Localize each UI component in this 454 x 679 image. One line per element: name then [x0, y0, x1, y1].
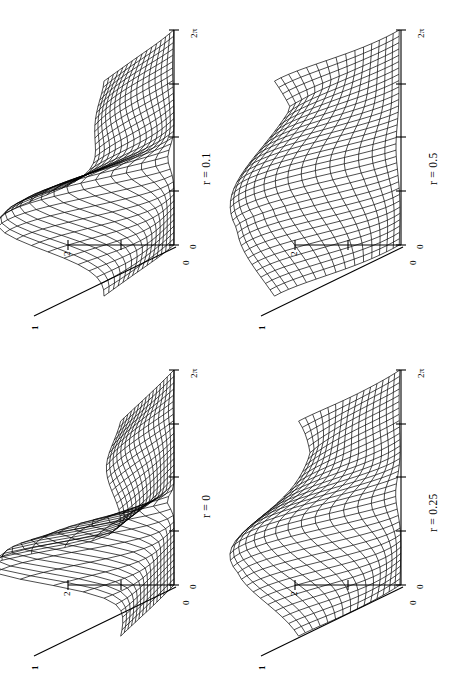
phase-axis-max-label: 2π	[416, 368, 426, 378]
mesh-line-depth	[1, 78, 109, 293]
mesh-line-phase	[282, 566, 400, 617]
phase-axis-max-label: 2π	[416, 28, 426, 38]
surface-mesh	[0, 370, 174, 636]
depth-axis	[34, 247, 176, 316]
depth-axis	[34, 587, 176, 656]
height-axis-max-label: 2	[62, 591, 72, 596]
mesh-line-phase	[230, 503, 396, 554]
surface-mesh	[230, 370, 401, 636]
phase-axis-zero-label: 0	[415, 584, 425, 589]
height-axis-max-label: 2	[62, 251, 72, 256]
surface-mesh	[0, 30, 174, 296]
mesh-line-phase	[299, 370, 400, 421]
panel-condition-label: r = 0.5	[427, 152, 439, 185]
mesh-line-depth	[0, 421, 123, 636]
mesh-line-phase	[279, 36, 399, 87]
mesh-line-depth	[384, 373, 396, 588]
surface-mesh	[230, 30, 400, 296]
mesh-line-depth	[20, 67, 126, 282]
height-axis-max-label: 2	[289, 591, 299, 596]
panel-condition-label: r = 0	[200, 495, 212, 518]
panel-r-0-25: r = 0.25 2π 0 0 2 1	[227, 340, 454, 679]
mesh-line-phase	[5, 182, 174, 233]
depth-axis-max-label: 1	[30, 665, 40, 670]
mesh-line-depth	[264, 404, 336, 619]
depth-axis	[261, 247, 403, 316]
depth-axis	[261, 587, 403, 656]
mesh-line-phase	[5, 163, 169, 214]
depth-axis-max-label: 1	[257, 325, 267, 330]
mesh-line-phase	[16, 156, 168, 207]
wireframe-surface-plot	[0, 340, 227, 679]
mesh-line-depth	[371, 377, 392, 592]
depth-axis-max-label: 1	[30, 325, 40, 330]
mesh-line-depth	[67, 54, 148, 269]
mesh-line-phase	[288, 62, 399, 113]
mesh-line-phase	[274, 30, 399, 81]
wireframe-surface-plot	[227, 0, 454, 339]
panel-condition-label: r = 0.1	[200, 152, 212, 185]
mesh-line-depth	[246, 411, 324, 626]
mesh-line-phase	[302, 376, 399, 427]
mesh-line-phase	[74, 131, 174, 182]
mesh-line-depth	[107, 384, 160, 599]
panel-r-0-5: r = 0.5 2π 0 0 2 1	[227, 0, 454, 339]
mesh-line-phase	[290, 55, 399, 106]
depth-axis-max-label: 1	[257, 665, 267, 670]
mesh-line-phase	[255, 471, 399, 522]
mesh-line-phase	[83, 125, 174, 176]
mesh-line-depth	[74, 390, 154, 605]
panel-r-0: r = 0 2π 0 0 2 1	[0, 340, 227, 679]
mesh-line-phase	[241, 528, 400, 579]
mesh-line-depth	[92, 387, 158, 602]
mesh-line-depth	[30, 64, 132, 279]
height-axis-max-label: 2	[289, 251, 299, 256]
mesh-line-phase	[116, 553, 174, 604]
wireframe-surface-plot	[0, 0, 227, 339]
mesh-line-phase	[95, 93, 173, 144]
phase-axis-zero-label: 0	[415, 244, 425, 249]
figure-canvas: r = 0.1 2π 0 0 2 1 r = 0.5 2π 0 0	[0, 0, 454, 679]
mesh-line-phase	[117, 383, 174, 434]
panel-r-0-1: r = 0.1 2π 0 0 2 1	[0, 0, 227, 339]
mesh-line-phase	[299, 585, 400, 636]
depth-axis-zero-label: 0	[408, 600, 418, 605]
mesh-line-phase	[284, 446, 400, 497]
mesh-line-depth	[31, 401, 144, 616]
depth-axis-zero-label: 0	[408, 260, 418, 265]
phase-axis-max-label: 2π	[189, 368, 199, 378]
phase-axis-max-label: 2π	[189, 28, 199, 38]
depth-axis-zero-label: 0	[181, 600, 191, 605]
mesh-line-phase	[31, 194, 174, 245]
mesh-line-depth	[234, 78, 296, 293]
wireframe-surface-plot	[227, 340, 454, 679]
mesh-line-phase	[247, 478, 397, 529]
mesh-line-depth	[239, 414, 319, 629]
mesh-line-phase	[230, 509, 397, 560]
phase-axis-zero-label: 0	[188, 584, 198, 589]
mesh-line-depth	[239, 74, 302, 289]
mesh-line-phase	[232, 144, 396, 195]
mesh-line-phase	[114, 446, 174, 497]
panel-condition-label: r = 0.25	[427, 493, 439, 532]
mesh-line-phase	[283, 43, 399, 94]
mesh-line-phase	[295, 433, 400, 484]
depth-axis-zero-label: 0	[181, 260, 191, 265]
mesh-line-phase	[286, 49, 399, 100]
phase-axis-zero-label: 0	[188, 244, 198, 249]
